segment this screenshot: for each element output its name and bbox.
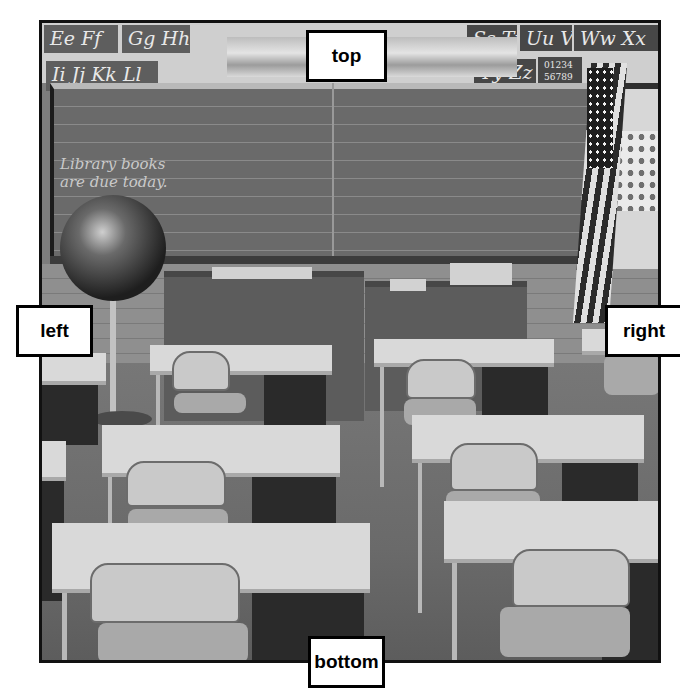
chair-seat: [174, 393, 246, 413]
alphabet-card: Gg Hh: [122, 25, 190, 53]
chair: [126, 461, 226, 507]
label-top: top: [306, 30, 387, 82]
desk-storage: [482, 367, 548, 415]
pencil-holder: [390, 279, 426, 291]
paper-tray: [450, 263, 512, 285]
chair: [512, 549, 630, 607]
chair: [604, 355, 660, 395]
alphabet-card-text: Gg Hh: [128, 27, 190, 49]
label-right: right: [605, 305, 680, 357]
label-top-text: top: [332, 45, 362, 67]
alphabet-card: Uu Vv: [520, 25, 572, 51]
desk-leg: [380, 367, 384, 487]
desk-storage: [264, 375, 326, 425]
alphabet-card-text: Ii Jj Kk Ll: [52, 63, 142, 85]
desk-papers: [212, 267, 312, 279]
alphabet-card-text: Uu Vv: [526, 27, 572, 49]
label-right-text: right: [623, 320, 665, 342]
alphabet-card-text: Ww Xx: [580, 27, 646, 49]
chalkboard-writing: Library books are due today.: [60, 155, 168, 191]
chalkboard-divider: [332, 83, 334, 258]
alphabet-card: Ee Ff: [44, 25, 118, 53]
chalkboard-line: Library books: [60, 155, 168, 173]
chair: [450, 443, 538, 491]
chair: [406, 359, 476, 399]
chalkboard-line: are due today.: [60, 173, 168, 191]
chair: [90, 563, 240, 623]
desk-leg: [62, 593, 67, 663]
desk-leg: [452, 563, 457, 663]
label-left: left: [16, 305, 93, 357]
number-card-text: 01234 56789: [544, 60, 573, 82]
alphabet-card: Ww Xx: [574, 25, 660, 51]
desk-storage: [42, 385, 98, 445]
desk-leg: [418, 463, 422, 613]
student-desk: [42, 353, 106, 385]
label-bottom: bottom: [308, 636, 385, 688]
globe-stand: [110, 293, 116, 423]
flag-stars: [587, 68, 613, 168]
alphabet-card-text: Ee Ff: [50, 27, 101, 49]
classroom-photo: Ee Ff Gg Hh Ii Jj Kk Ll Ss Tt Uu Vv Ww X…: [39, 20, 661, 663]
chair: [172, 351, 230, 391]
label-bottom-text: bottom: [314, 651, 378, 673]
chair-seat: [98, 623, 248, 663]
label-left-text: left: [40, 320, 69, 342]
globe: [60, 195, 166, 301]
chair-seat: [500, 607, 630, 657]
student-desk: [42, 441, 66, 481]
